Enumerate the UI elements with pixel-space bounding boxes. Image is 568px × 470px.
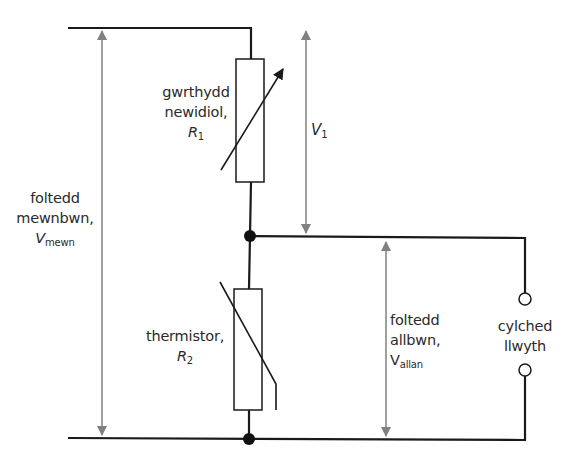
bottom-wire (68, 376, 525, 440)
label-thermistor-symbol: R2 (138, 346, 232, 371)
label-variable-resistor-line2: newidiol, (152, 102, 240, 122)
label-load-circuit: cylched llwyth (490, 316, 560, 356)
label-thermistor-line1: thermistor, (138, 326, 232, 346)
label-v1: V1 (311, 121, 328, 140)
label-output-voltage-line2: allbwn, (390, 330, 456, 350)
label-input-voltage: foltedd mewnbwn, Vmewn (10, 188, 100, 253)
label-variable-resistor: gwrthydd newidiol, R1 (152, 82, 240, 147)
label-input-voltage-line2: mewnbwn, (10, 208, 100, 228)
load-terminal-bottom (519, 364, 531, 376)
label-output-voltage-line1: foltedd (390, 310, 456, 330)
label-load-circuit-line2: llwyth (490, 336, 560, 356)
label-variable-resistor-symbol: R1 (152, 122, 240, 147)
label-input-voltage-line1: foltedd (10, 188, 100, 208)
load-terminal-top (519, 293, 531, 305)
wire-r1-to-junction (250, 182, 251, 236)
label-load-circuit-line1: cylched (490, 316, 560, 336)
label-output-voltage-symbol: Vallan (390, 350, 456, 375)
top-wire (68, 28, 251, 59)
label-input-voltage-symbol: Vmewn (10, 228, 100, 253)
resistor-r1-body (236, 59, 264, 182)
wires (68, 28, 525, 440)
label-output-voltage: foltedd allbwn, Vallan (390, 310, 456, 375)
output-top-wire (250, 236, 525, 293)
junction-dot-middle (244, 230, 256, 242)
label-variable-resistor-line1: gwrthydd (152, 82, 240, 102)
junction-dot-bottom (243, 433, 255, 445)
wire-junction-to-thermistor (249, 236, 250, 289)
label-thermistor: thermistor, R2 (138, 326, 232, 371)
